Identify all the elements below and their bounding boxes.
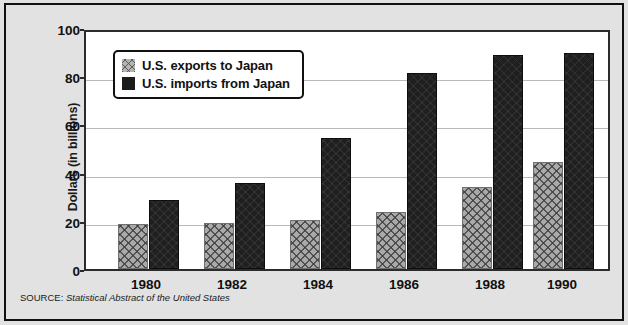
x-tick-label-1980: 1980 xyxy=(111,277,181,292)
legend-entry-exports[interactable]: U.S. exports to Japan xyxy=(122,56,290,74)
x-tick-label-1986: 1986 xyxy=(369,277,439,292)
bar-exports-1984[interactable] xyxy=(290,220,320,269)
y-tick-label-0: 0 xyxy=(40,264,80,279)
chart-legend[interactable]: U.S. exports to Japan U.S. imports from … xyxy=(113,50,304,99)
bar-group-1986 xyxy=(376,32,437,269)
y-tick-label-40: 40 xyxy=(40,167,80,182)
y-tick-label-80: 80 xyxy=(40,71,80,86)
bar-imports-1980[interactable] xyxy=(149,200,179,269)
bar-exports-1990[interactable] xyxy=(533,162,563,269)
bar-imports-1988[interactable] xyxy=(493,55,523,269)
bar-exports-1980[interactable] xyxy=(118,224,148,269)
plot-area: U.S. exports to Japan U.S. imports from … xyxy=(84,30,610,271)
bar-exports-1986[interactable] xyxy=(376,212,406,269)
bar-imports-1986[interactable] xyxy=(407,73,437,269)
x-tick-label-1984: 1984 xyxy=(283,277,353,292)
bar-group-1990 xyxy=(533,32,594,269)
x-tick-label-1982: 1982 xyxy=(197,277,267,292)
legend-label-exports: U.S. exports to Japan xyxy=(142,58,273,73)
figure-border: Dollars (in billions) 100 80 60 40 20 0 xyxy=(4,3,624,321)
source-title: Statistical Abstract of the United State… xyxy=(66,292,230,303)
y-tick-label-20: 20 xyxy=(40,215,80,230)
y-axis-ticks: 100 80 60 40 20 0 xyxy=(34,30,80,271)
bar-exports-1988[interactable] xyxy=(462,187,492,269)
source-note: SOURCE: Statistical Abstract of the Unit… xyxy=(20,292,230,303)
x-tick-label-1988: 1988 xyxy=(455,277,525,292)
legend-entry-imports[interactable]: U.S. imports from Japan xyxy=(122,74,290,92)
legend-label-imports: U.S. imports from Japan xyxy=(142,76,290,91)
x-tick-label-1990: 1990 xyxy=(527,277,597,292)
y-axis-title-container: Dollars (in billions) xyxy=(6,100,32,210)
bar-imports-1984[interactable] xyxy=(321,138,351,269)
bar-exports-1982[interactable] xyxy=(204,223,234,269)
bar-group-1988 xyxy=(462,32,523,269)
y-tick-label-100: 100 xyxy=(40,23,80,38)
bar-imports-1990[interactable] xyxy=(564,53,594,269)
legend-swatch-exports-icon xyxy=(122,59,135,72)
y-tick-label-60: 60 xyxy=(40,119,80,134)
bar-imports-1982[interactable] xyxy=(235,183,265,269)
legend-swatch-imports-icon xyxy=(122,77,135,90)
chart-figure: Dollars (in billions) 100 80 60 40 20 0 xyxy=(0,0,628,325)
source-label: SOURCE: xyxy=(20,292,63,303)
